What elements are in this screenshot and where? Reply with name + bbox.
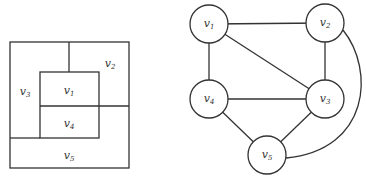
region-label-v1: v1 bbox=[64, 84, 75, 98]
map-labels: v1v2v3v4v5 bbox=[20, 57, 116, 163]
region-label-v5: v5 bbox=[64, 149, 75, 163]
edge-v1-v3 bbox=[209, 24, 325, 99]
region-label-v3: v3 bbox=[20, 85, 31, 99]
diagram-canvas: v1v2v3v4v5 v1v2v3v4v5 bbox=[0, 0, 366, 181]
region-label-v4: v4 bbox=[64, 117, 75, 131]
region-label-v2: v2 bbox=[105, 57, 116, 71]
